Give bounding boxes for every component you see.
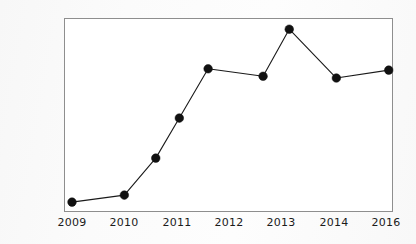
data-point-marker <box>384 66 393 75</box>
data-point-marker <box>68 198 77 207</box>
data-point-marker <box>259 72 268 81</box>
series-plot <box>0 0 416 244</box>
data-point-marker <box>204 65 213 74</box>
data-point-marker <box>332 74 341 83</box>
data-point-marker <box>151 154 160 163</box>
data-point-marker <box>285 25 294 34</box>
data-point-marker <box>175 114 184 123</box>
series-markers <box>68 25 393 207</box>
series-line <box>72 29 389 202</box>
data-point-marker <box>120 191 129 200</box>
line-chart-figure: 40.000 30.000 20.000 10.000 0 2009 2010 … <box>0 0 416 244</box>
